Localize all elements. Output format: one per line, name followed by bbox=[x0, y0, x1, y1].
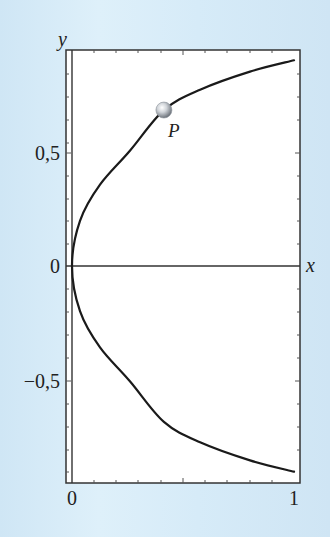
x-tick-label-0: 0 bbox=[67, 487, 77, 509]
chart: P y x 0,5 0 −0,5 0 1 bbox=[0, 0, 330, 537]
y-tick-label-0.5: 0,5 bbox=[35, 142, 60, 164]
y-axis-label: y bbox=[56, 28, 67, 51]
point-p-marker bbox=[156, 102, 172, 118]
y-tick-label-neg0.5: −0,5 bbox=[24, 370, 60, 392]
y-tick-label-0: 0 bbox=[50, 255, 60, 277]
x-axis-label: x bbox=[305, 254, 315, 276]
x-tick-label-1: 1 bbox=[289, 487, 299, 509]
point-p-label: P bbox=[167, 120, 180, 141]
